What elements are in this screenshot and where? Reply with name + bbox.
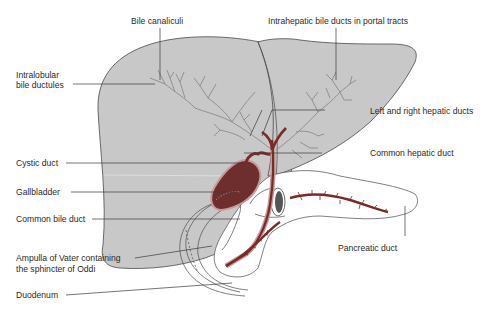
duodenum-lumen	[275, 191, 283, 213]
label-ampulla-line2: the sphincter of Oddi	[16, 264, 95, 274]
label-left-right-hepatic: Left and right hepatic ducts	[370, 106, 473, 116]
label-duodenum: Duodenum	[16, 290, 58, 300]
label-cystic-duct: Cystic duct	[16, 158, 58, 168]
label-pancreatic-duct: Pancreatic duct	[338, 243, 397, 253]
biliary-anatomy-diagram: Bile canaliculi Intrahepatic bile ducts …	[0, 0, 498, 316]
label-bile-canaliculi: Bile canaliculi	[131, 16, 183, 26]
label-common-hepatic: Common hepatic duct	[370, 148, 454, 158]
label-intrahepatic-ducts: Intrahepatic bile ducts in portal tracts	[268, 16, 408, 26]
label-gallbladder: Gallbladder	[16, 187, 60, 197]
label-intralobular-line2: bile ductules	[16, 80, 64, 90]
label-intralobular-line1: Intralobular	[16, 70, 59, 80]
label-ampulla-line1: Ampulla of Vater containing	[16, 253, 120, 263]
label-common-bile-duct: Common bile duct	[16, 214, 85, 224]
